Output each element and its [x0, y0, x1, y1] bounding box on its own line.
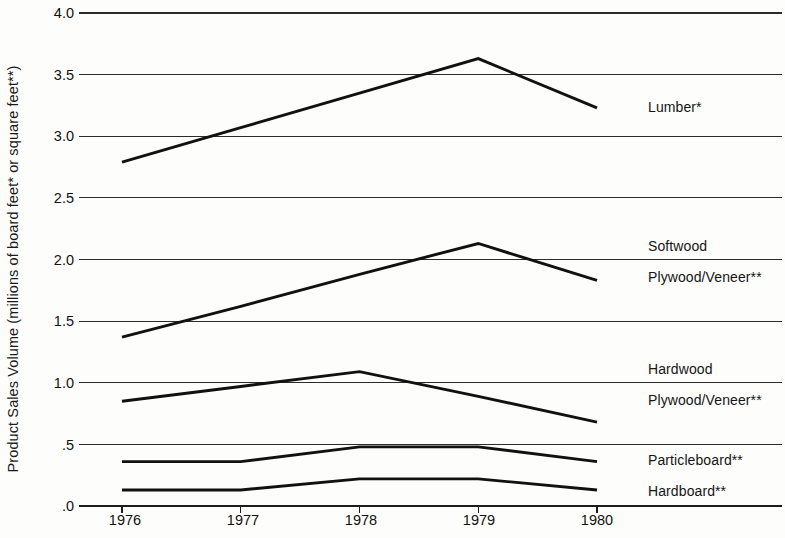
series-paths [122, 59, 597, 490]
x-axis-tickmarks [122, 506, 597, 513]
gridlines [79, 13, 782, 506]
series-line-softwood-plywood-veneer [122, 243, 597, 337]
series-line-hardboard [122, 479, 597, 490]
series-line-particleboard [122, 447, 597, 462]
line-chart: Product Sales Volume (millions of board … [0, 0, 785, 538]
series-line-hardwood-plywood-veneer [122, 372, 597, 423]
plot-area [0, 0, 785, 538]
